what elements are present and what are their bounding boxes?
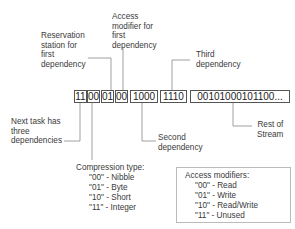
- label-reservation-station: Reservation station for first dependency: [41, 31, 86, 69]
- label-line: first: [41, 50, 86, 60]
- label-line: station for: [41, 41, 86, 51]
- bit-box-access-modifier: 00: [115, 90, 128, 103]
- label-rest-of-stream: Rest of Stream: [257, 120, 283, 139]
- access-modifier-item: "01" - Write: [195, 191, 236, 200]
- compression-type-item: "10" - Short: [89, 193, 131, 202]
- label-line: Reservation: [41, 31, 86, 41]
- label-next-task: Next task has three dependencies: [11, 117, 62, 146]
- bit-box-compression-type: 00: [87, 90, 100, 103]
- access-modifier-item: "11" - Unused: [195, 211, 245, 220]
- label-line: dependency: [196, 60, 241, 70]
- compression-type-item: "00" - Nibble: [89, 173, 134, 182]
- label-line: dependency: [41, 60, 86, 70]
- label-second-dependency: Second dependency: [158, 133, 203, 152]
- label-line: Rest of: [257, 120, 283, 130]
- access-modifier-item: "00" - Read: [195, 181, 237, 190]
- access-modifiers-legend: Access modifiers: "00" - Read "01" - Wri…: [176, 167, 291, 223]
- label-line: first: [112, 31, 157, 41]
- label-line: Stream: [257, 130, 283, 140]
- label-line: Third: [196, 50, 241, 60]
- label-line: dependencies: [11, 136, 62, 146]
- bit-box-third-dependency: 1110: [160, 90, 187, 103]
- access-modifier-item: "10" - Read/Write: [195, 201, 258, 210]
- label-line: modifier for: [112, 22, 157, 32]
- label-line: dependency: [158, 143, 203, 153]
- bit-box-dependency-count: 11: [74, 90, 87, 103]
- label-line: dependency: [112, 41, 157, 51]
- compression-type-item: "11" - Integer: [89, 203, 136, 212]
- label-access-modifier: Access modifier for first dependency: [112, 12, 157, 50]
- label-third-dependency: Third dependency: [196, 50, 241, 69]
- bit-box-rest-of-stream: 00101000101100...: [190, 90, 290, 103]
- label-line: Second: [158, 133, 203, 143]
- label-line: Next task has: [11, 117, 62, 127]
- access-modifiers-title: Access modifiers:: [185, 171, 249, 180]
- bit-box-second-dependency: 1000: [130, 90, 158, 103]
- compression-type-item: "01" - Byte: [89, 183, 128, 192]
- compression-type-title: Compression type:: [76, 163, 144, 172]
- label-line: three: [11, 127, 62, 137]
- bit-box-reservation-station: 01: [101, 90, 114, 103]
- label-line: Access: [112, 12, 157, 22]
